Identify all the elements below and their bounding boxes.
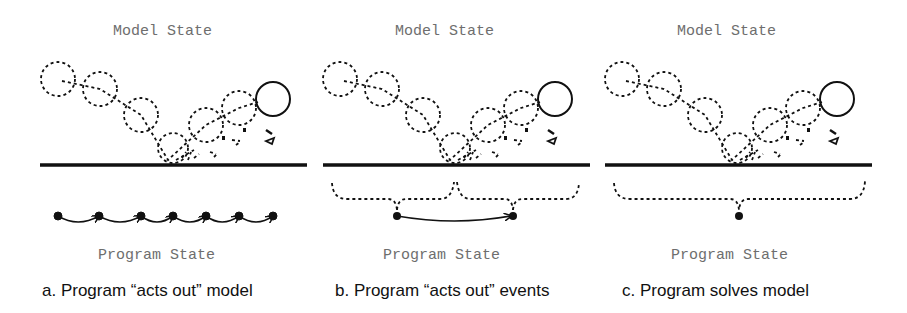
- panel-c-model-state-label: Model State: [677, 23, 776, 40]
- panel-a-model-state-label: Model State: [113, 23, 212, 40]
- panel-c-caption: c. Program solves model: [622, 281, 809, 301]
- diagram-canvas: [0, 0, 907, 313]
- panel-c-program-state-label: Program State: [671, 247, 788, 264]
- panel-b-program-state-label: Program State: [383, 247, 500, 264]
- panel-c-program-states: [614, 181, 865, 220]
- panel-a-program-state-label: Program State: [98, 247, 215, 264]
- panel-b-model-scene: [323, 62, 590, 165]
- panel-a-program-states: [54, 212, 277, 222]
- panel-b-model-state-label: Model State: [395, 23, 494, 40]
- panel-b-program-states: [332, 182, 579, 221]
- panel-c-model-scene: [605, 62, 872, 165]
- panel-a-model-scene: [40, 62, 307, 165]
- panel-a-caption: a. Program “acts out” model: [42, 281, 253, 301]
- panel-b-caption: b. Program “acts out” events: [335, 281, 549, 301]
